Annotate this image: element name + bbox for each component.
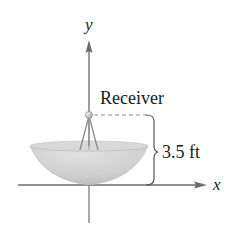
receiver-label: Receiver — [100, 88, 164, 108]
x-axis-label: x — [212, 175, 221, 194]
parabolic-dish-diagram: y x Receiver 3.5 ft — [0, 0, 231, 227]
y-axis-label: y — [83, 15, 93, 34]
height-brace — [146, 115, 158, 185]
dish-body — [30, 146, 148, 185]
receiver-ball — [85, 111, 92, 118]
height-label: 3.5 ft — [162, 142, 200, 162]
